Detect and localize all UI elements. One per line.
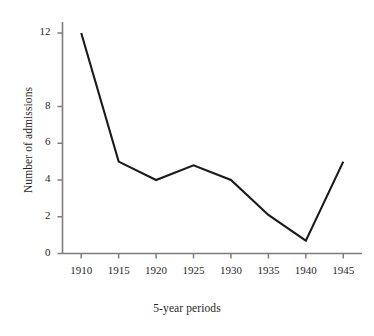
- x-tick-label: 1940: [286, 264, 326, 276]
- y-tick-label: 8: [25, 99, 51, 111]
- plot-area: [0, 0, 374, 336]
- x-tick-label: 1935: [248, 264, 288, 276]
- x-tick-label: 1915: [99, 264, 139, 276]
- y-tick-label: 4: [25, 172, 51, 184]
- x-tick-label: 1910: [61, 264, 101, 276]
- x-tick-label: 1930: [211, 264, 251, 276]
- line-chart-figure: Number of admissions 5-year periods 0246…: [0, 0, 374, 336]
- x-tick-label: 1925: [174, 264, 214, 276]
- y-tick-label: 2: [25, 209, 51, 221]
- x-tick-label: 1920: [136, 264, 176, 276]
- y-tick-label: 6: [25, 135, 51, 147]
- y-tick-label: 12: [25, 25, 51, 37]
- y-tick-label: 0: [25, 246, 51, 258]
- x-axis-title: 5-year periods: [0, 302, 374, 314]
- x-tick-label: 1945: [323, 264, 363, 276]
- data-series-line: [81, 33, 343, 241]
